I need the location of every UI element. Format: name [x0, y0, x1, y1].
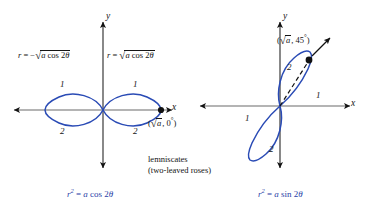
- left-vertex-point: [158, 107, 164, 113]
- left-branch-label-positive: r = √a cos 2θ: [107, 50, 155, 60]
- figure-caption: lemniscates (two-leaved roses): [148, 154, 211, 175]
- left-branch-label-negative: r = −√a cos 2θ: [18, 50, 70, 60]
- right-radius-dashed-line: [280, 62, 308, 106]
- right-loop-upper-inner-number: 1: [316, 91, 321, 100]
- left-loop-right-lower-number: 2: [133, 127, 138, 136]
- caption-line-1: lemniscates: [148, 154, 211, 165]
- right-lower-loop: [248, 106, 281, 161]
- caption-line-2: (two-leaved roses): [148, 165, 211, 176]
- right-point-label: (√a, 45°): [277, 35, 310, 45]
- right-equation: r2 = a sin 2θ: [258, 190, 303, 199]
- right-x-axis-label: x: [351, 99, 355, 109]
- left-equation: r2 = a cos 2θ: [67, 190, 113, 199]
- figure-canvas: [0, 0, 382, 211]
- left-loop-right-upper-number: 1: [133, 80, 138, 89]
- right-loop-lower-outer-number: 1: [245, 114, 250, 123]
- right-vertex-point: [306, 57, 313, 64]
- right-direction-arrow: [312, 38, 330, 56]
- left-loop-left-lower-number: 2: [60, 127, 65, 136]
- left-panel-axes: [14, 22, 172, 168]
- left-loop-left-upper-number: 1: [60, 80, 65, 89]
- right-y-axis-label: y: [283, 12, 287, 22]
- left-x-axis-label: x: [172, 103, 176, 113]
- right-panel-axes: [200, 22, 350, 168]
- left-y-axis-label: y: [106, 12, 110, 22]
- right-loop-lower-inner-number: 2: [269, 145, 274, 154]
- left-point-label: (√a, 0°): [148, 118, 176, 128]
- lemniscate-figure: x y r = −√a cos 2θ r = √a cos 2θ 1 2 1 2…: [0, 0, 382, 211]
- right-loop-upper-outer-number: 2: [287, 63, 292, 72]
